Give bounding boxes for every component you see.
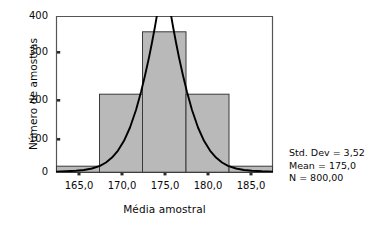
y-axis-title: Número de amostras	[27, 14, 39, 174]
x-tick-label-175: 175,0	[142, 181, 188, 191]
mean-text: Mean = 175,0	[289, 160, 365, 173]
histogram-bars	[57, 32, 273, 172]
bar-bin-2	[100, 94, 143, 172]
x-tick-label-170: 170,0	[99, 181, 145, 191]
bar-bin-4	[186, 94, 229, 172]
x-tick-label-185: 185,0	[228, 181, 274, 191]
y-axis-ticks	[57, 51, 60, 141]
histogram-figure: 400 300 200 100 0 Número de amostras 165…	[0, 0, 377, 227]
std-dev-text: Std. Dev = 3,52	[289, 147, 365, 160]
histogram-plot-area	[0, 0, 377, 227]
sample-count-text: N = 800,00	[289, 172, 365, 185]
x-tick-label-180: 180,0	[185, 181, 231, 191]
statistics-annotation: Std. Dev = 3,52 Mean = 175,0 N = 800,00	[289, 147, 365, 185]
x-tick-label-165: 165,0	[56, 181, 102, 191]
x-axis-title: Média amostral	[56, 203, 273, 215]
x-axis-ticks	[78, 173, 253, 176]
